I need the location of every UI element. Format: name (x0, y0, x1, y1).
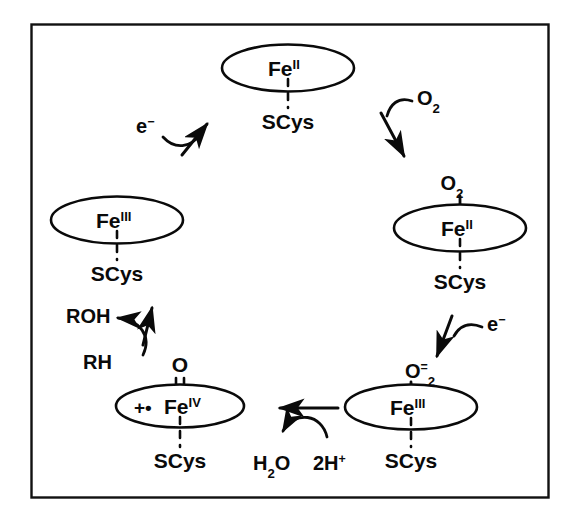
product-label-roh: ROH (66, 305, 110, 327)
step-electron-reduction-to-ferrous: e− (136, 115, 207, 155)
electron-label-top-left: e− (136, 115, 154, 137)
cycle-arrow-top-to-right (381, 113, 404, 156)
cycle-arrow-bottom-left-to-left (143, 308, 152, 345)
cycle-arrow-left-to-top (182, 124, 207, 155)
figure-canvas: FeII SCys e− O2 O2 (0, 0, 571, 520)
species-peroxo-ferric: O=2 FeIII SCys (345, 360, 477, 472)
species-compound-one-scys-label: SCys (154, 449, 207, 472)
species-oxy-ferrous-scys-label: SCys (434, 270, 487, 293)
species-ferrous-scys-label: SCys (262, 110, 315, 133)
dioxygen-curved-arrow (387, 100, 412, 116)
proton-label: 2H+ (313, 452, 346, 474)
species-oxy-ferrous: O2 FeII SCys (394, 172, 526, 293)
step-electron-reduction-to-peroxo: e− (437, 313, 505, 356)
electron-curved-arrow-right (454, 325, 482, 336)
figure-border (32, 25, 549, 498)
water-label: H2O (253, 452, 290, 481)
species-ferric-resting-scys-label: SCys (91, 262, 144, 285)
step-substrate-hydroxylation: ROH RH (66, 305, 152, 373)
proton-water-curved-arrow (283, 417, 327, 437)
species-compound-one: O +• FeIV SCys (116, 353, 244, 472)
substrate-to-product-curved-arrow (118, 318, 146, 355)
species-compound-one-oxo-label: O (172, 353, 188, 376)
species-compound-one-radical-marker: +• (134, 397, 152, 418)
species-peroxo-ferric-scys-label: SCys (385, 449, 438, 472)
species-ferrous: FeII SCys (222, 45, 354, 134)
electron-label-right: e− (487, 313, 505, 335)
cycle-arrow-right-to-bottom-right (437, 316, 452, 356)
step-protonation-and-water-release: H2O 2H+ (253, 408, 346, 481)
step-dioxygen-binding: O2 (381, 87, 440, 156)
substrate-label-rh: RH (83, 351, 112, 373)
species-ferric-resting: FeIII SCys (51, 197, 183, 286)
p450-catalytic-cycle-diagram: FeII SCys e− O2 O2 (0, 0, 571, 520)
dioxygen-label: O2 (417, 87, 440, 116)
